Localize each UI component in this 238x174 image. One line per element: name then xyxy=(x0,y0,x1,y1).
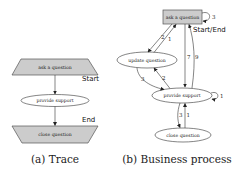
bp-edge-label-provide-ask: 9 xyxy=(195,54,199,60)
trace-node-ask-question-label: ask a question xyxy=(38,65,72,70)
bp-node-provide-support-label: provide support xyxy=(163,93,200,98)
bp-edge-label-ask-self: 3 xyxy=(212,14,216,20)
trace-diagram: ask a question Start provide support End… xyxy=(12,59,99,165)
bp-edge-label-update-provide: 3 xyxy=(141,76,145,82)
bp-edge-label-provide-self: 1 xyxy=(220,93,224,99)
bp-edge-label-provide-close: 3 xyxy=(179,112,183,118)
bp-edge-label-ask-update: 2 xyxy=(161,34,165,40)
bp-node-ask-question-label: ask a question xyxy=(166,15,200,20)
bp-edge-label-provide-update: 2 xyxy=(162,75,166,81)
bp-node-close-question-label: close question xyxy=(166,133,199,138)
trace-end-annotation: End xyxy=(82,116,95,124)
bp-edge-label-update-ask: 1 xyxy=(168,36,172,42)
trace-start-annotation: Start xyxy=(82,75,99,83)
bp-edge-ask-self-loop xyxy=(202,13,210,22)
business-process-diagram: ask a question 3 Start/End update questi… xyxy=(117,10,232,165)
trace-caption: (a) Trace xyxy=(31,153,79,165)
trace-node-close-question-label: close question xyxy=(38,132,71,137)
bp-edge-label-close-provide: 1 xyxy=(187,112,191,118)
bp-edge-update-to-ask xyxy=(154,25,176,53)
trace-node-provide-support-label: provide support xyxy=(36,98,73,103)
bp-start-end-annotation: Start/End xyxy=(193,26,226,34)
diagram-canvas: ask a question Start provide support End… xyxy=(0,0,238,174)
bp-caption: (b) Business process xyxy=(122,153,232,165)
bp-edge-label-ask-provide: 7 xyxy=(187,54,191,60)
bp-node-update-question-label: update question xyxy=(128,58,166,63)
